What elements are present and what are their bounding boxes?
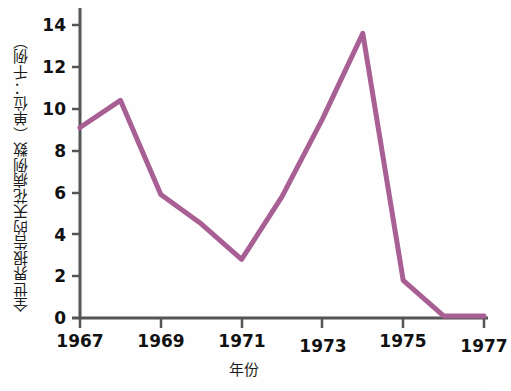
- data-series-line: [80, 33, 484, 316]
- axes: [72, 8, 488, 328]
